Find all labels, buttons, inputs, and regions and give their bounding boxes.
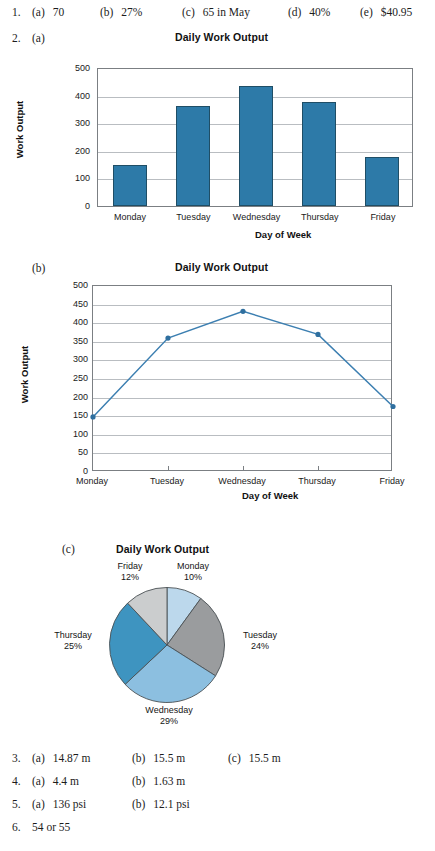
answer-5b-tag: (b) [132,798,145,810]
pie-label-tuesday: Tuesday 24% [231,630,289,652]
pie-label-friday-name: Friday [117,561,142,571]
pie-chart-title: Daily Work Output [116,543,209,555]
answer-number-3: 3. [12,752,21,764]
answer-5a: (a) 136 psi [32,798,86,810]
pie-label-wednesday-value: 29% [160,716,178,726]
answer-number-5: 5. [12,798,21,810]
answer-4a-tag: (a) [32,775,45,787]
answer-6-value: 54 or 55 [32,821,70,833]
answer-4b: (b) 1.63 m [132,775,185,787]
answer-4a-value: 4.4 m [53,775,79,787]
pie-label-thursday-value: 25% [64,641,82,651]
pie-label-thursday-name: Thursday [54,630,92,640]
answer-3b-tag: (b) [132,752,145,764]
answer-number-4: 4. [12,775,21,787]
pie-label-tuesday-value: 24% [251,641,269,651]
answer-5b: (b) 12.1 psi [132,798,190,810]
pie-label-monday-name: Monday [177,561,209,571]
pie-label-tuesday-name: Tuesday [243,630,277,640]
pie-chart: Daily Work Output Friday 12% Monday 10% … [0,0,435,740]
pie-chart-circle [102,580,232,710]
answer-3b-value: 15.5 m [153,752,185,764]
answer-3c-value: 15.5 m [249,752,281,764]
answer-4b-value: 1.63 m [153,775,185,787]
answer-3a: (a) 14.87 m [32,752,90,764]
answer-5a-value: 136 psi [53,798,87,810]
answer-5b-value: 12.1 psi [153,798,189,810]
answer-3a-value: 14.87 m [53,752,91,764]
answer-3a-tag: (a) [32,752,45,764]
answer-number-6: 6. [12,821,21,833]
answer-4a: (a) 4.4 m [32,775,79,787]
answer-3b: (b) 15.5 m [132,752,185,764]
answer-key-page: { "page": { "background": "#ffffff" }, "… [0,0,435,851]
answer-4b-tag: (b) [132,775,145,787]
answer-5a-tag: (a) [32,798,45,810]
answer-3c: (c) 15.5 m [228,752,281,764]
answer-3c-tag: (c) [228,752,241,764]
pie-label-thursday: Thursday 25% [42,630,104,652]
